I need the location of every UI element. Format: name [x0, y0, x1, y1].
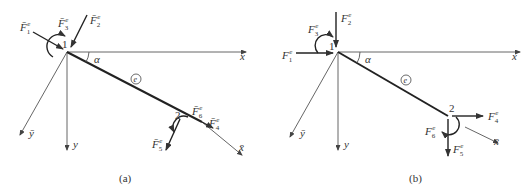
F3-label-b: F3e: [307, 22, 319, 38]
angle-arc-a: [86, 52, 89, 62]
alpha-label-a: α: [94, 53, 100, 65]
F3-label-a: F̄3e: [57, 16, 69, 32]
beam-element-diagram: F̄1e F̄3e F̄2e 1 α e x y ȳ x̄ 2 F̄6e F̄4…: [0, 0, 530, 193]
ybar-axis-a: [20, 52, 67, 135]
node-2-label-a: 2: [175, 109, 181, 121]
element-label-a: e: [131, 74, 141, 84]
ybar-axis-b: [290, 52, 338, 137]
panel-a: F̄1e F̄3e F̄2e 1 α e x y ȳ x̄ 2 F̄6e F̄4…: [19, 13, 246, 185]
ybar-axis-label-b: ȳ: [299, 127, 306, 139]
xbar-axis-a: [202, 122, 242, 155]
x-axis-label-b: x: [511, 50, 517, 62]
y-axis-label-a: y: [72, 138, 78, 150]
node-1-label-b: 1: [329, 40, 335, 52]
svg-text:e: e: [404, 76, 408, 85]
angle-arc-b: [357, 52, 360, 63]
node-1-label-a: 1: [62, 38, 68, 50]
ybar-axis-label-a: ȳ: [28, 127, 35, 139]
F4-label-a: F̄4e: [208, 116, 220, 132]
xbar-axis-label-b: x̄: [493, 135, 499, 147]
F5-label-a: F̄5e: [151, 137, 163, 153]
element-line-a: [67, 52, 202, 122]
F2-label-a: F̄2e: [89, 13, 101, 29]
panel-b: F1e F3e F2e 1 α e x y ȳ x̄ 2 F4e F6e F5e…: [281, 11, 520, 185]
moment-F6-arrow-b: [442, 117, 459, 135]
x-axis-label-a: x: [239, 50, 245, 62]
y-axis-label-b: y: [343, 138, 349, 150]
xbar-axis-label-a: x̄: [238, 141, 244, 153]
svg-text:e: e: [134, 75, 138, 84]
caption-b: (b): [409, 172, 422, 185]
F1-label-b: F1e: [281, 48, 293, 64]
element-line-b: [338, 52, 448, 116]
node-2-label-b: 2: [449, 102, 455, 114]
F6-label-b: F6e: [424, 124, 436, 140]
caption-a: (a): [119, 172, 132, 185]
F2-label-b: F2e: [340, 11, 352, 27]
force-F2-arrow-a: [71, 15, 87, 47]
element-label-b: e: [401, 75, 411, 85]
F4-label-b: F4e: [487, 109, 499, 125]
F5-label-b: F5e: [452, 142, 464, 158]
alpha-label-b: α: [365, 53, 371, 65]
F1-label-a: F̄1e: [19, 20, 31, 36]
